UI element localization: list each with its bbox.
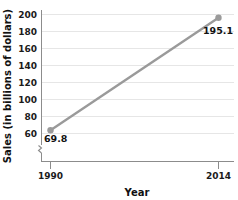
- line-chart: 200 180 160 140 120 100 80 60 1990 2014 …: [0, 0, 238, 200]
- y-tick-label-60: 60: [24, 129, 37, 139]
- y-tick-label-80: 80: [24, 112, 37, 122]
- x-tick-label-1990: 1990: [38, 171, 63, 181]
- y-tick-label-120: 120: [18, 78, 37, 88]
- y-tick-label-180: 180: [18, 27, 37, 37]
- data-point-2014: [215, 15, 221, 21]
- y-axis-title: Sales (in billions of dollars): [2, 9, 13, 163]
- data-label-2014: 195.1: [203, 25, 233, 36]
- y-tick-label-160: 160: [18, 44, 37, 54]
- x-axis-title: Year: [124, 187, 150, 198]
- chart-canvas: 200 180 160 140 120 100 80 60 1990 2014 …: [0, 0, 238, 200]
- y-tick-label-140: 140: [18, 61, 37, 71]
- x-tick-label-2014: 2014: [206, 171, 231, 181]
- y-tick-label-200: 200: [18, 10, 37, 20]
- y-tick-label-100: 100: [18, 95, 37, 105]
- data-label-1990: 69.8: [44, 133, 68, 144]
